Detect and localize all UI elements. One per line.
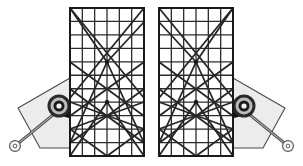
- figure-root: [0, 0, 303, 166]
- rod-eyelet-hole-right: [286, 144, 290, 148]
- pivot-hub-right: [233, 95, 256, 118]
- pivot-hub-left: [48, 95, 71, 118]
- grid-panel-left: [70, 8, 144, 156]
- assembly-diagram: [0, 0, 303, 166]
- grid-panel-right: [159, 8, 233, 156]
- rod-eyelet-hole-left: [13, 144, 17, 148]
